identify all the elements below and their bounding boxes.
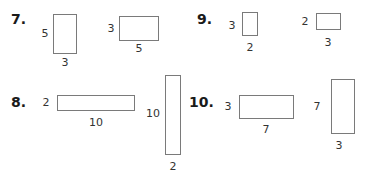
- problem-number: 7.: [11, 12, 26, 26]
- side-length-label: 3: [225, 101, 232, 112]
- bottom-length-label: 2: [247, 42, 254, 53]
- bottom-length-label: 3: [325, 37, 332, 48]
- rectangle-figure: [57, 95, 135, 111]
- problem-number: 9.: [197, 12, 212, 26]
- bottom-length-label: 10: [89, 117, 103, 128]
- side-length-label: 3: [229, 20, 236, 31]
- rectangle-figure: [165, 75, 181, 155]
- side-length-label: 3: [108, 23, 115, 34]
- bottom-length-label: 7: [263, 124, 270, 135]
- side-length-label: 2: [43, 97, 50, 108]
- side-length-label: 5: [42, 28, 49, 39]
- problem-number: 8.: [11, 95, 26, 109]
- rectangle-figure: [242, 12, 258, 36]
- side-length-label: 2: [302, 16, 309, 27]
- side-length-label: 7: [314, 101, 321, 112]
- bottom-length-label: 3: [62, 57, 69, 68]
- rectangle-figure: [53, 14, 77, 54]
- bottom-length-label: 5: [136, 43, 143, 54]
- bottom-length-label: 3: [336, 140, 343, 151]
- problem-number: 10.: [189, 95, 214, 109]
- rectangle-figure: [239, 95, 294, 119]
- bottom-length-label: 2: [170, 161, 177, 172]
- rectangle-figure: [331, 79, 355, 134]
- rectangle-figure: [119, 16, 159, 41]
- rectangle-figure: [316, 13, 341, 30]
- side-length-label: 10: [146, 108, 160, 119]
